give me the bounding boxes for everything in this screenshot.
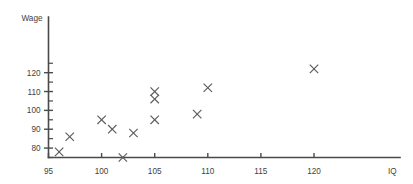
y-axis-tick-label: 110 xyxy=(27,88,40,97)
y-axis-tick-label: 100 xyxy=(27,106,41,115)
y-axis-tick-label: 120 xyxy=(27,69,41,78)
data-point-marker xyxy=(66,133,74,141)
data-point-marker xyxy=(108,125,116,133)
x-axis-tick-label: 115 xyxy=(254,167,267,176)
data-point-marker xyxy=(310,65,318,73)
data-point-marker xyxy=(97,116,105,124)
scatter-chart: 809010011012095100105110115120WageIQ xyxy=(0,0,413,184)
y-axis-tick-label: 90 xyxy=(31,125,41,134)
x-axis-tick-label: 105 xyxy=(148,167,162,176)
x-axis-tick-label: 120 xyxy=(307,167,321,176)
data-point-marker xyxy=(151,116,159,124)
x-axis-tick-label: 100 xyxy=(95,167,109,176)
data-point-marker xyxy=(204,84,212,92)
y-axis-tick-label: 80 xyxy=(31,144,41,153)
data-point-marker xyxy=(55,148,63,156)
plot-area: 809010011012095100105110115120WageIQ xyxy=(0,0,413,184)
y-axis-title: Wage xyxy=(21,14,43,23)
x-axis-title: IQ xyxy=(388,167,397,176)
x-axis-tick-label: 110 xyxy=(201,167,214,176)
data-point-marker xyxy=(129,129,137,137)
data-point-marker xyxy=(151,87,159,95)
data-point-marker xyxy=(151,95,159,103)
data-point-marker xyxy=(193,110,201,118)
x-axis-tick-label: 95 xyxy=(44,167,54,176)
